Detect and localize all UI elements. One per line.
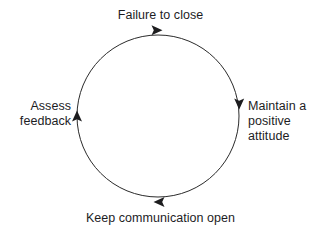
arrow-bottom-icon [154,197,165,207]
arrow-right-icon [234,99,244,110]
cycle-node-label-right: Maintain a positive attitude [248,99,321,144]
cycle-diagram: Failure to close Maintain a positive att… [0,0,321,238]
cycle-node-label-top: Failure to close [0,8,321,23]
cycle-circle-path [77,35,239,197]
arrow-top-icon [152,25,163,35]
cycle-node-label-bottom: Keep communication open [0,211,321,226]
cycle-node-label-left: Assess feedback [0,99,71,129]
